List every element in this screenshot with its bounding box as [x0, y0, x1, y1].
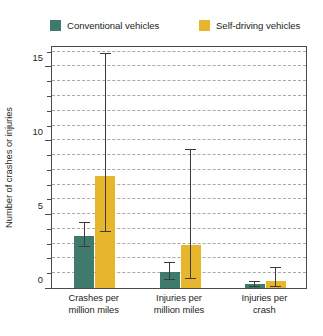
x-axis-tick-labels: Crashes permillion milesInjuries permill…: [51, 292, 307, 332]
plot-inner: [52, 47, 306, 288]
gridline: [52, 65, 306, 66]
legend-item-self-driving-vehicles[interactable]: Self-driving vehicles: [199, 18, 300, 32]
error-bar-cap-bottom: [100, 231, 111, 232]
plot-area: [51, 46, 307, 289]
legend-swatch-icon: [50, 20, 61, 31]
gridline: [52, 139, 306, 140]
x-axis-tick-label-line: million miles: [51, 304, 136, 316]
x-axis-tick-label-line: million miles: [136, 304, 221, 316]
error-bar-line: [190, 149, 191, 279]
legend-label: Conventional vehicles: [67, 20, 159, 31]
gridline: [52, 213, 306, 214]
x-axis-tick-label-line: Injuries per: [136, 292, 221, 304]
legend-item-conventional-vehicles[interactable]: Conventional vehicles: [50, 18, 159, 32]
y-axis-title-text: Number of crashes or injuries: [3, 107, 14, 228]
error-bar-cap-top: [270, 267, 281, 268]
y-axis-tick-label: 5: [38, 201, 43, 210]
error-bar: [270, 267, 281, 287]
error-bar: [100, 53, 111, 232]
error-bar-cap-top: [100, 53, 111, 54]
x-axis-tick-label: Injuries percrash: [222, 292, 307, 315]
error-bar-cap-bottom: [270, 286, 281, 287]
y-axis-title: Number of crashes or injuries: [0, 46, 16, 289]
error-bar-cap-bottom: [164, 279, 175, 280]
error-bar-cap-top: [249, 281, 260, 282]
error-bar-cap-bottom: [185, 278, 196, 279]
gridline: [52, 184, 306, 185]
error-bar-cap-top: [185, 149, 196, 150]
gridline: [52, 110, 306, 111]
y-axis-tick-label: 15: [33, 53, 43, 62]
x-axis-tick-label-line: crash: [222, 304, 307, 316]
x-axis-tick-label: Crashes permillion miles: [51, 292, 136, 315]
x-axis-tick-label-line: Crashes per: [51, 292, 136, 304]
y-axis-tick-label: 0: [38, 275, 43, 284]
error-bar-line: [84, 222, 85, 247]
error-bar-line: [169, 262, 170, 280]
x-axis-tick-label: Injuries permillion miles: [136, 292, 221, 315]
error-bar-line: [275, 267, 276, 287]
bar-chart-figure: Conventional vehicles Self-driving vehic…: [0, 0, 323, 336]
gridline: [52, 125, 306, 126]
gridline: [52, 228, 306, 229]
error-bar: [164, 262, 175, 280]
error-bar: [249, 281, 260, 286]
error-bar: [185, 149, 196, 279]
error-bar-line: [105, 53, 106, 232]
error-bar-cap-bottom: [249, 286, 260, 287]
gridline: [52, 95, 306, 96]
y-axis-tick-label: 10: [33, 127, 43, 136]
gridline: [52, 154, 306, 155]
gridline: [52, 169, 306, 170]
legend-label: Self-driving vehicles: [216, 20, 300, 31]
gridline: [52, 51, 306, 52]
gridline: [52, 198, 306, 199]
error-bar-cap-top: [164, 262, 175, 263]
error-bar: [79, 222, 90, 247]
legend-swatch-icon: [199, 20, 210, 31]
y-axis-tick-labels: 051015: [16, 46, 43, 289]
error-bar-cap-top: [79, 222, 90, 223]
chart-legend: Conventional vehicles Self-driving vehic…: [0, 18, 323, 36]
error-bar-cap-bottom: [79, 246, 90, 247]
x-axis-tick-label-line: Injuries per: [222, 292, 307, 304]
gridline: [52, 80, 306, 81]
